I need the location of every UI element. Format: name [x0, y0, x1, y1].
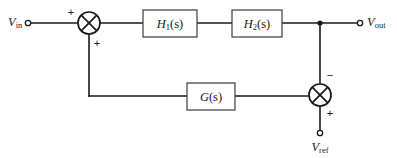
label-vin: Vin — [8, 15, 23, 30]
block-g-label: G(s) — [200, 89, 222, 103]
diagram-canvas: H1(s) H2(s) G(s) + + — [0, 0, 397, 158]
terminal-vout — [357, 20, 362, 25]
block-diagram: H1(s) H2(s) G(s) + + — [0, 0, 397, 158]
label-vout-sub: out — [375, 20, 387, 30]
label-vref-sub: ref — [319, 145, 329, 155]
label-vin-sub: in — [16, 20, 23, 30]
block-h1-arg: (s) — [170, 16, 183, 30]
block-h1: H1(s) — [143, 10, 197, 37]
summing-junction-upper: + + — [68, 6, 100, 49]
summing-junction-lower: − + — [309, 69, 333, 119]
label-vref: Vref — [311, 140, 328, 155]
sign-lower-bottom-plus: + — [327, 107, 333, 119]
terminal-vin — [25, 20, 30, 25]
terminal-vref — [317, 130, 322, 135]
block-g-arg: (s) — [209, 89, 222, 103]
sign-upper-left-plus: + — [68, 6, 74, 18]
block-h2: H2(s) — [232, 10, 282, 37]
block-g: G(s) — [187, 83, 235, 110]
block-h2-arg: (s) — [257, 16, 270, 30]
block-h1-label: H1(s) — [156, 16, 183, 31]
block-g-fn: G — [200, 89, 209, 103]
sign-upper-bottom-plus: + — [94, 37, 100, 49]
sign-lower-top-minus: − — [327, 69, 333, 81]
label-vout: Vout — [367, 15, 386, 30]
block-h2-label: H2(s) — [243, 16, 270, 31]
output-tap-node — [317, 20, 322, 25]
